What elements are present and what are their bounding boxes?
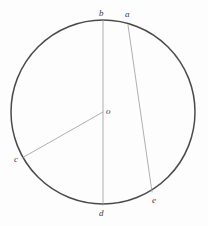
point-label-b: b [99,9,104,18]
point-label-d: d [99,209,104,218]
point-label-c: c [14,155,18,164]
chord-line-ae [128,25,152,192]
point-label-o: o [106,107,111,116]
point-label-a: a [125,10,130,19]
circle-diagram-svg [0,0,208,226]
figure-canvas: b a o c d e [0,0,208,226]
radius-line-oc [22,112,103,158]
point-label-e: e [152,196,156,205]
